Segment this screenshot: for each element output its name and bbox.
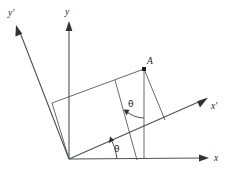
- x-prime-axis-arrowhead: [197, 98, 208, 108]
- y-prime-axis-line: [20, 31, 70, 159]
- x-prime-axis-label: x′: [210, 101, 218, 111]
- x-prime-axis-line: [69, 100, 203, 159]
- y-axis-arrowhead: [66, 21, 73, 31]
- angle-arc-upper: [126, 111, 144, 118]
- angle-lower-label: θ: [114, 144, 120, 154]
- angle-arc-lower-arrowhead: [109, 137, 115, 144]
- diagram-canvas: y y′ x x′ A θ θ: [0, 0, 228, 171]
- geometry-figure: y y′ x x′ A θ θ: [0, 0, 228, 171]
- point-a-dot: [142, 67, 146, 71]
- x-axis-label: x: [213, 153, 219, 163]
- parallelogram-edge-origin-left: [52, 103, 69, 159]
- point-a-label: A: [146, 56, 153, 66]
- point-a-marker: [142, 67, 146, 71]
- parallelogram-edge-top-right: [144, 69, 165, 120]
- x-axis-line: [69, 158, 204, 159]
- y-prime-axis-label: y′: [7, 8, 15, 18]
- y-axis-label: y: [64, 7, 70, 17]
- parallelogram-edge-left-top: [52, 69, 144, 103]
- angle-upper-label: θ: [128, 99, 134, 109]
- x-axis-arrowhead: [199, 155, 209, 162]
